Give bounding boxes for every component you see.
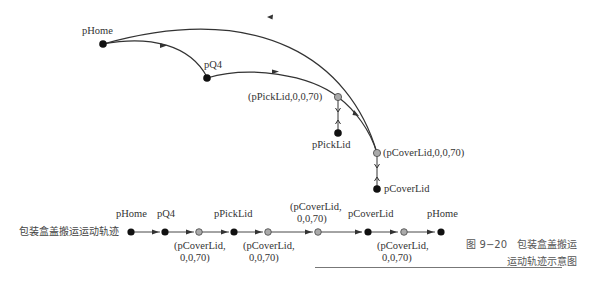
seq-label-5b: 0,0,70)	[249, 252, 279, 264]
arrow-icon	[272, 70, 279, 75]
node-pq4	[203, 74, 211, 82]
label-coverlid-offset: (pCoverLid,0,0,70)	[383, 147, 464, 159]
node-coverlid	[373, 185, 381, 193]
seq-label-6a: (pCoverLid,	[290, 201, 342, 213]
node-picklid-offset	[334, 93, 341, 100]
label-picklid: pPickLid	[312, 139, 351, 151]
figure-caption: 图 9−20 包装盒盖搬运 运动轨迹示意图	[466, 236, 577, 270]
label-pq4: pQ4	[204, 59, 222, 71]
seq-label-8b: 0,0,70)	[382, 252, 412, 264]
seq-label-2: pQ4	[157, 208, 175, 220]
seq-label-3b: 0,0,70)	[180, 252, 210, 264]
seq-node-1	[127, 228, 134, 235]
seq-label-8a: (pCoverLid,	[377, 240, 429, 252]
seq-label-6b: 0,0,70)	[297, 213, 327, 225]
seq-node-9	[437, 228, 444, 235]
seq-label-3a: (pCoverLid,	[174, 240, 226, 252]
seq-node-2	[161, 228, 168, 235]
caption-rule	[315, 267, 562, 268]
node-coverlid-offset	[373, 149, 380, 156]
label-coverlid: pCoverLid	[384, 183, 430, 195]
seq-node-8	[401, 229, 408, 236]
node-phome	[99, 40, 107, 48]
caption-line-1: 图 9−20 包装盒盖搬运	[466, 236, 577, 253]
arrow-icon	[267, 15, 273, 20]
sequence-title: 包装盒盖搬运运动轨迹	[19, 226, 119, 238]
seq-node-4	[230, 228, 237, 235]
seq-node-5	[265, 229, 272, 236]
seq-label-1: pHome	[116, 208, 147, 220]
seq-node-3	[196, 229, 203, 236]
seq-label-7: pCoverLid	[348, 208, 394, 220]
seq-node-6	[315, 229, 322, 236]
seq-label-4: pPickLid	[214, 208, 253, 220]
node-picklid	[334, 129, 342, 137]
seq-node-7	[364, 228, 371, 235]
label-phome: pHome	[82, 25, 113, 37]
path-home-to-q4	[103, 41, 207, 77]
seq-label-5a: (pCoverLid,	[243, 240, 295, 252]
label-picklid-offset: (pPickLid,0,0,70)	[248, 91, 322, 103]
seq-label-9: pHome	[427, 208, 458, 220]
